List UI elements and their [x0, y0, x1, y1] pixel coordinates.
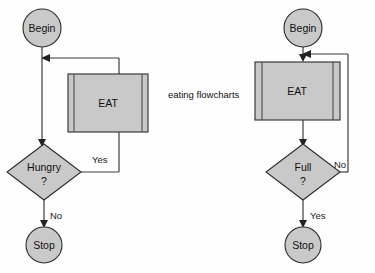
hungry-label: Hungry — [27, 161, 62, 173]
node-full-decision: Full ? — [266, 144, 340, 200]
caption-eating-flowcharts: eating flowcharts — [168, 89, 240, 100]
eat-label-left: EAT — [98, 97, 118, 109]
flowchart-canvas: EAT Hungry ? Stop Begin — [0, 0, 375, 273]
node-hungry-decision: Hungry ? — [7, 144, 81, 200]
edge-label-full-no: No — [334, 159, 346, 170]
begin-label-left: Begin — [29, 22, 56, 34]
begin-label-right: Begin — [290, 22, 317, 34]
flowchart-svg: EAT Hungry ? Stop Begin — [0, 0, 375, 273]
eat-label-right: EAT — [287, 85, 307, 97]
hungry-question-mark: ? — [41, 175, 47, 187]
node-eat-right: EAT — [255, 62, 340, 120]
edge-label-full-yes: Yes — [310, 210, 326, 221]
diagram-full-loop: EAT Full ? Stop Begin — [255, 9, 348, 263]
edge-label-hungry-no: No — [50, 210, 62, 221]
node-begin-left: Begin — [23, 9, 61, 47]
full-label: Full — [295, 161, 312, 173]
stop-label-right: Stop — [292, 239, 314, 251]
stop-label-left: Stop — [33, 239, 55, 251]
node-stop-left: Stop — [26, 227, 62, 263]
node-eat-left: EAT — [68, 74, 148, 132]
diagram-hungry-loop: EAT Hungry ? Stop Begin — [7, 9, 148, 263]
edge-label-hungry-yes: Yes — [92, 154, 108, 165]
node-stop-right: Stop — [285, 227, 321, 263]
full-question-mark: ? — [300, 175, 306, 187]
node-begin-right: Begin — [284, 9, 322, 47]
